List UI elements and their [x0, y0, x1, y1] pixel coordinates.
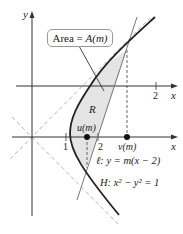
x-axis-upper-arrow-icon: [171, 84, 178, 89]
line-l-label: ℓ: y = m(x − 2): [96, 156, 160, 167]
area-callout-prefix: Area =: [52, 32, 85, 44]
area-callout: Area = A(m): [47, 29, 113, 47]
x-axis-upper-label: x: [171, 90, 176, 101]
y-axis-arrow-icon: [30, 11, 35, 18]
point-v-label: v(m): [118, 142, 136, 152]
y-axis-label: y: [23, 9, 28, 20]
x-axis-lower-arrow-icon: [171, 135, 178, 140]
asymptote-negative: [12, 117, 118, 224]
hyperbola-label: H: x² − y² = 1: [100, 178, 159, 189]
tick-label-upper-2: 2: [153, 91, 158, 101]
point-v: [124, 134, 130, 140]
tick-label-2: 2: [98, 142, 103, 152]
area-callout-func: A(m): [86, 32, 108, 44]
x-axis-lower-label: x: [171, 141, 176, 152]
point-u: [84, 134, 90, 140]
tick-label-1: 1: [63, 142, 68, 152]
region-label: R: [89, 104, 96, 115]
point-u-label: u(m): [77, 123, 96, 133]
